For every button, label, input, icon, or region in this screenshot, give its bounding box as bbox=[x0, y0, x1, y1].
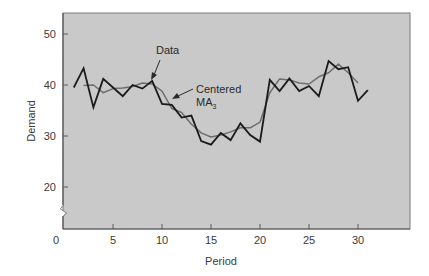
annotation-ma-label: Centered bbox=[196, 83, 241, 95]
x-tick-label: 5 bbox=[110, 234, 116, 246]
y-tick-label: 20 bbox=[44, 181, 56, 193]
annotation-data-label: Data bbox=[156, 44, 180, 56]
annotation-ma-text: MA bbox=[196, 96, 213, 108]
x-tick-label: 15 bbox=[205, 234, 217, 246]
line-chart: 20304050 051015202530 Data Centered MA3 … bbox=[0, 0, 429, 276]
x-tick-label: 10 bbox=[156, 234, 168, 246]
y-axis-title: Demand bbox=[25, 100, 37, 142]
x-axis-title: Period bbox=[205, 255, 237, 267]
x-tick-label: 20 bbox=[254, 234, 266, 246]
y-tick-label: 30 bbox=[44, 130, 56, 142]
x-tick-label: 30 bbox=[352, 234, 364, 246]
y-tick-label: 50 bbox=[44, 28, 56, 40]
plot-area bbox=[63, 13, 410, 229]
x-tick-label: 0 bbox=[53, 234, 59, 246]
x-tick-label: 25 bbox=[303, 234, 315, 246]
annotation-ma-subscript: 3 bbox=[213, 103, 217, 110]
y-tick-label: 40 bbox=[44, 79, 56, 91]
